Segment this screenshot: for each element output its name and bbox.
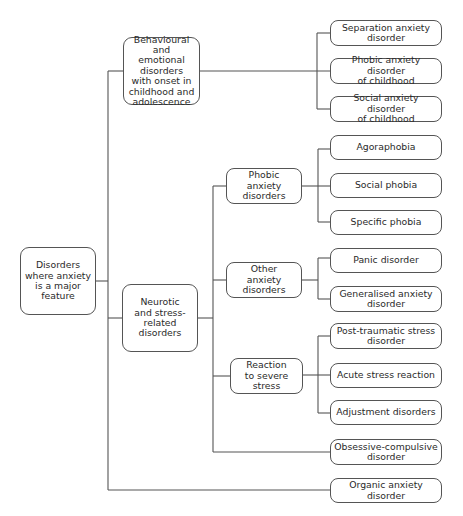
- behavioural-label: Behavioural and emotional disorders with…: [127, 35, 196, 108]
- acute-stress-node: Acute stress reaction: [330, 363, 442, 388]
- neurotic-label: Neurotic and stress- related disorders: [134, 297, 185, 339]
- behavioural-node: Behavioural and emotional disorders with…: [123, 37, 200, 105]
- other-anxiety-node: Other anxiety disorders: [226, 262, 302, 298]
- phobic-childhood-node: Phobic anxiety disorder of childhood: [330, 58, 442, 84]
- organic-node: Organic anxiety disorder: [330, 478, 442, 503]
- root-node: Disorders where anxiety is a major featu…: [20, 247, 96, 315]
- phobic-childhood-label: Phobic anxiety disorder of childhood: [334, 55, 438, 86]
- ptsd-label: Post-traumatic stress disorder: [337, 326, 435, 347]
- phobic-anxiety-node: Phobic anxiety disorders: [226, 168, 302, 204]
- reaction-stress-label: Reaction to severe stress: [245, 360, 288, 391]
- generalised-anxiety-node: Generalised anxiety disorder: [330, 286, 442, 312]
- agoraphobia-node: Agoraphobia: [330, 135, 442, 160]
- reaction-stress-node: Reaction to severe stress: [230, 358, 303, 394]
- root-label: Disorders where anxiety is a major featu…: [25, 260, 91, 302]
- phobic-anxiety-label: Phobic anxiety disorders: [243, 170, 286, 201]
- separation-anxiety-node: Separation anxiety disorder: [330, 20, 442, 46]
- ocd-label: Obsessive-compulsive disorder: [334, 442, 438, 463]
- other-anxiety-label: Other anxiety disorders: [243, 264, 286, 295]
- organic-label: Organic anxiety disorder: [334, 480, 438, 501]
- social-phobia-node: Social phobia: [330, 173, 442, 198]
- acute-stress-label: Acute stress reaction: [337, 370, 435, 380]
- ocd-node: Obsessive-compulsive disorder: [330, 439, 442, 465]
- ptsd-node: Post-traumatic stress disorder: [330, 323, 442, 349]
- adjustment-disorders-node: Adjustment disorders: [330, 400, 442, 425]
- social-childhood-label: Social anxiety disorder of childhood: [334, 93, 438, 124]
- generalised-anxiety-label: Generalised anxiety disorder: [339, 289, 432, 310]
- social-childhood-node: Social anxiety disorder of childhood: [330, 96, 442, 122]
- panic-disorder-node: Panic disorder: [330, 248, 442, 273]
- agoraphobia-label: Agoraphobia: [356, 142, 415, 152]
- separation-anxiety-label: Separation anxiety disorder: [342, 23, 430, 44]
- social-phobia-label: Social phobia: [355, 180, 417, 190]
- panic-disorder-label: Panic disorder: [353, 255, 419, 265]
- adjustment-disorders-label: Adjustment disorders: [336, 407, 435, 417]
- neurotic-node: Neurotic and stress- related disorders: [122, 284, 198, 352]
- specific-phobia-label: Specific phobia: [351, 217, 422, 227]
- specific-phobia-node: Specific phobia: [330, 210, 442, 235]
